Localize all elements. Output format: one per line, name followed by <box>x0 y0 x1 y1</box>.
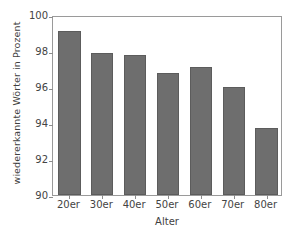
y-axis-tick-labels: 9092949698100 <box>20 0 48 240</box>
bar <box>190 67 212 195</box>
y-axis-tick-label: 98 <box>20 47 48 57</box>
x-axis-tick-label: 70er <box>216 199 249 211</box>
y-axis-tick-label: 94 <box>20 119 48 129</box>
y-axis-tick-mark <box>49 197 53 198</box>
plot-area <box>52 16 282 196</box>
bar-chart-figure: wiedererkannte Wörter in Prozent 9092949… <box>0 0 294 240</box>
y-axis-tick-mark <box>49 89 53 90</box>
x-axis-tick-labels: 20er30er40er50er60er70er80er <box>52 199 282 213</box>
x-axis-tick-label: 50er <box>151 199 184 211</box>
y-axis-tick-label: 96 <box>20 83 48 93</box>
bar <box>157 73 179 195</box>
x-axis-tick-label: 40er <box>118 199 151 211</box>
bar <box>124 55 146 195</box>
y-axis-tick-label: 100 <box>20 11 48 21</box>
y-axis-tick-mark <box>49 161 53 162</box>
y-axis-tick-mark <box>49 53 53 54</box>
x-axis-tick-label: 80er <box>249 199 282 211</box>
bar <box>255 128 277 195</box>
x-axis-tick-label: 30er <box>85 199 118 211</box>
x-axis-title: Alter <box>52 216 282 228</box>
bar <box>91 53 113 195</box>
x-axis-tick-label: 20er <box>52 199 85 211</box>
y-axis-tick-mark <box>49 125 53 126</box>
y-axis-tick-mark <box>49 17 53 18</box>
y-axis-tick-label: 92 <box>20 155 48 165</box>
x-axis-tick-label: 60er <box>183 199 216 211</box>
bar <box>58 31 80 195</box>
bar <box>223 87 245 195</box>
bar-series <box>53 17 281 195</box>
y-axis-tick-label: 90 <box>20 191 48 201</box>
